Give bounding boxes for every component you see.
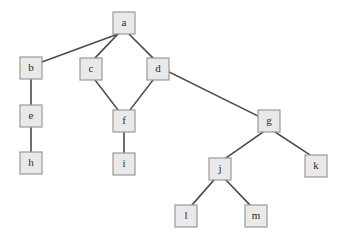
graph-node-j[interactable]: j bbox=[209, 158, 231, 180]
graph-edge-g-k bbox=[275, 132, 310, 155]
graph-node-label-a: a bbox=[122, 16, 127, 28]
graph-node-label-c: c bbox=[89, 62, 94, 74]
graph-node-f[interactable]: f bbox=[113, 110, 135, 132]
graph-node-e[interactable]: e bbox=[20, 105, 42, 127]
graph-node-b[interactable]: b bbox=[20, 57, 42, 79]
graph-node-h[interactable]: h bbox=[20, 152, 42, 174]
graph-node-a[interactable]: a bbox=[113, 12, 135, 34]
graph-node-k[interactable]: k bbox=[305, 155, 327, 177]
graph-node-c[interactable]: c bbox=[80, 58, 102, 80]
graph-edge-d-g bbox=[169, 72, 258, 116]
graph-node-label-g: g bbox=[266, 114, 272, 126]
graph-node-label-e: e bbox=[29, 109, 34, 121]
graph-edge-g-j bbox=[226, 132, 263, 158]
graph-node-d[interactable]: d bbox=[147, 58, 169, 80]
graph-edge-c-f bbox=[95, 80, 118, 110]
graph-node-label-f: f bbox=[122, 114, 126, 126]
graph-node-label-i: i bbox=[122, 157, 125, 169]
graph-edge-a-d bbox=[129, 34, 153, 58]
graph-edge-j-l bbox=[192, 180, 214, 205]
graph-node-l[interactable]: l bbox=[175, 205, 197, 227]
graph-node-label-k: k bbox=[313, 159, 319, 171]
graph-edge-j-m bbox=[226, 180, 250, 205]
node-layer: abcdefghijklm bbox=[20, 12, 327, 227]
graph-node-label-m: m bbox=[252, 209, 261, 221]
graph-node-label-j: j bbox=[217, 162, 221, 174]
graph-node-g[interactable]: g bbox=[258, 110, 280, 132]
graph-node-label-b: b bbox=[28, 61, 34, 73]
graph-node-i[interactable]: i bbox=[113, 153, 135, 175]
graph-edge-d-f bbox=[130, 80, 153, 110]
graph-node-label-l: l bbox=[184, 209, 187, 221]
graph-node-label-d: d bbox=[155, 62, 161, 74]
graph-diagram: abcdefghijklm bbox=[0, 0, 344, 242]
graph-node-m[interactable]: m bbox=[245, 205, 267, 227]
graph-node-label-h: h bbox=[28, 156, 34, 168]
